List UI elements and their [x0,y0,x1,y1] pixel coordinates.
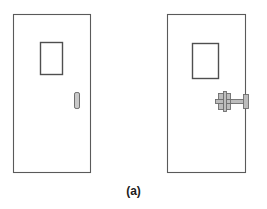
door-right-vision-window [193,44,219,79]
panic-bar-end-plate [244,95,249,109]
figure-container: (a) [0,0,267,209]
figure-caption: (a) [0,184,267,198]
door-comparison-illustration [0,0,267,209]
panic-bar-bracket-vertical-member [224,92,227,112]
panic-bar-rod [231,100,245,104]
door-left-pull-handle-icon [75,93,80,109]
panic-bar-bracket-block-tl [219,94,224,100]
door-left-vision-window [41,43,63,75]
door-right [168,15,249,173]
door-left [14,15,91,173]
door-right-panel [168,15,246,173]
panic-bar-bracket-block-bl [219,104,224,110]
